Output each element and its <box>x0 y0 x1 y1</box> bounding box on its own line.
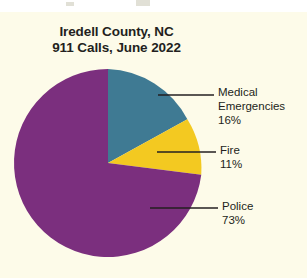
slice-value-fire: 11% <box>220 157 242 171</box>
slice-label-medical-emergencies-line-1: Medical <box>218 85 285 99</box>
slice-label-fire: Fire 11% <box>220 143 242 171</box>
slice-label-medical-emergencies-line-2: Emergencies <box>218 99 285 113</box>
slice-label-police-line-1: Police <box>222 199 253 213</box>
slice-value-police: 73% <box>222 213 253 227</box>
slice-label-police: Police 73% <box>222 199 253 227</box>
slice-label-fire-line-1: Fire <box>220 143 242 157</box>
pie-chart-svg <box>0 0 307 278</box>
pie-chart-figure: Iredell County, NC 911 Calls, June 2022 … <box>0 0 307 278</box>
slice-label-medical-emergencies: Medical Emergencies 16% <box>218 85 285 127</box>
slice-value-medical-emergencies: 16% <box>218 113 285 127</box>
